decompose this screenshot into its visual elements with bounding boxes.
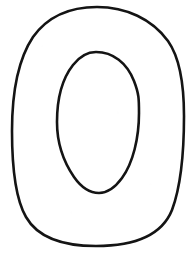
- drawing-canvas: [0, 0, 193, 256]
- canvas-background: [0, 0, 193, 256]
- letter-o-outline-drawing: [0, 0, 193, 256]
